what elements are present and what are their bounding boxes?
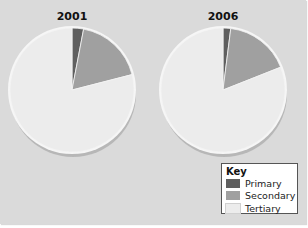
legend-label-primary: Primary <box>245 178 282 189</box>
legend-label-tertiary: Tertiary <box>245 203 281 214</box>
chart-panel: 2001 2006 Key Primary Secondary Tertiary <box>0 0 306 224</box>
swatch-primary-icon <box>226 179 240 188</box>
legend-label-secondary: Secondary <box>245 190 295 201</box>
swatch-tertiary-icon <box>226 204 240 213</box>
legend-title: Key <box>226 166 293 177</box>
chart-title-2001: 2001 <box>42 10 102 23</box>
swatch-secondary-icon <box>226 191 240 200</box>
legend-item-secondary: Secondary <box>226 190 293 203</box>
legend-item-tertiary: Tertiary <box>226 202 293 215</box>
legend-item-primary: Primary <box>226 177 293 190</box>
legend-key: Key Primary Secondary Tertiary <box>221 163 298 214</box>
chart-title-2006: 2006 <box>193 10 253 23</box>
pie-chart-2001 <box>6 24 140 164</box>
pie-chart-2006 <box>157 24 291 164</box>
